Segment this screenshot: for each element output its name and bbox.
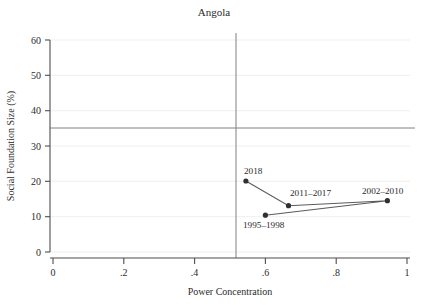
data-point-2018 [243, 178, 248, 183]
data-point-1995-1998 [263, 213, 268, 218]
chart-title: Angola [198, 6, 231, 18]
y-tick-label-60: 60 [31, 35, 41, 46]
x-tick-label-0.2: .2 [120, 267, 128, 278]
x-tick-label-0.8: .8 [332, 267, 340, 278]
y-tick-label-0: 0 [36, 247, 41, 258]
y-tick-label-10: 10 [31, 211, 41, 222]
x-axis-label: Power Concentration [188, 286, 273, 297]
x-tick-label-0.4: .4 [191, 267, 199, 278]
y-tick-label-40: 40 [31, 105, 41, 116]
point-label-2002-2010: 2002–2010 [362, 186, 404, 196]
x-tick-label-0.6: .6 [262, 267, 270, 278]
y-tick-label-30: 30 [31, 141, 41, 152]
point-label-2018: 2018 [244, 166, 263, 176]
chart-figure: 0 10 20 30 40 50 60 0 .2 .4 .6 .8 1 Powe… [0, 0, 424, 305]
x-tick-label-1: 1 [405, 267, 410, 278]
point-label-1995-1998: 1995–1998 [243, 220, 285, 230]
point-label-2011-2017: 2011–2017 [290, 188, 331, 198]
angola-scatter-line-chart: 0 10 20 30 40 50 60 0 .2 .4 .6 .8 1 Powe… [0, 0, 424, 305]
y-tick-label-20: 20 [31, 176, 41, 187]
y-axis-label: Social Foundation Size (%) [5, 91, 17, 201]
y-tick-label-50: 50 [31, 70, 41, 81]
x-tick-label-0: 0 [51, 267, 56, 278]
data-point-2002-2010 [385, 198, 390, 203]
data-point-2011-2017 [286, 203, 291, 208]
chart-background [0, 0, 424, 305]
